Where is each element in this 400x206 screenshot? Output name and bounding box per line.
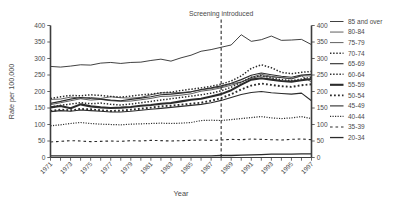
y-tick-label-left: 400: [34, 22, 45, 29]
y-tick-label-right: 250: [317, 71, 328, 78]
legend-label-35-39: 35-39: [348, 123, 365, 130]
y-tick-label-left: 50: [38, 137, 46, 144]
y-tick-label-right: 350: [317, 38, 328, 45]
legend-label-75-79: 75-79: [348, 39, 365, 46]
x-tick-label: 1987: [199, 160, 214, 175]
line-chart-svg: Screening introduced00505010010015015020…: [0, 0, 400, 206]
legend-label-80-84: 80-84: [348, 28, 365, 35]
axes-group: 0050501001001501502002002502503003003503…: [34, 22, 328, 175]
x-tick-label: 1985: [179, 160, 194, 175]
legend-label-70-74: 70-74: [348, 50, 365, 57]
y-tick-label-right: 200: [317, 88, 328, 95]
y-tick-label-right: 150: [317, 104, 328, 111]
series-line-85-and-over: [51, 35, 312, 67]
y-tick-label-left: 100: [34, 121, 45, 128]
legend-label-65-69: 65-69: [348, 60, 365, 67]
x-tick-label: 1979: [119, 160, 134, 175]
series-line-35-39: [51, 139, 312, 142]
legend-label-45-49: 45-49: [348, 102, 365, 109]
x-tick-label: 1977: [99, 160, 114, 175]
y-tick-label-left: 300: [34, 55, 45, 62]
series-line-65-69: [51, 73, 312, 103]
x-tick-label: 1995: [279, 160, 294, 175]
y-tick-label-left: 200: [34, 88, 45, 95]
x-tick-label: 1991: [239, 160, 254, 175]
x-axis-title: Year: [174, 189, 189, 198]
screening-introduced-label: Screening introduced: [189, 10, 253, 18]
series-line-20-34: [51, 154, 312, 156]
y-tick-label-right: 300: [317, 55, 328, 62]
x-tick-label: 1989: [219, 160, 234, 175]
y-tick-label-left: 150: [34, 104, 45, 111]
y-tick-label-left: 350: [34, 38, 45, 45]
legend-label-85-and-over: 85 and over: [348, 18, 383, 25]
x-tick-label: 1973: [58, 160, 73, 175]
legend-label-40-44: 40-44: [348, 113, 365, 120]
legend: 85 and over80-8475-7970-7465-6960-6455-5…: [330, 18, 383, 141]
y-tick-label-left: 0: [42, 154, 46, 161]
legend-label-20-34: 20-34: [348, 134, 365, 141]
legend-label-60-64: 60-64: [348, 71, 365, 78]
series-group: [51, 35, 312, 156]
series-line-40-44: [51, 117, 312, 126]
x-tick-label: 1981: [139, 160, 154, 175]
x-tick-label: 1983: [159, 160, 174, 175]
x-tick-label: 1971: [38, 160, 53, 175]
x-tick-label: 1975: [79, 160, 94, 175]
legend-label-55-59: 55-59: [348, 81, 365, 88]
y-tick-label-right: 400: [317, 22, 328, 29]
y-tick-label-left: 250: [34, 71, 45, 78]
y-tick-label-right: 0: [317, 154, 321, 161]
y-tick-label-right: 50: [317, 137, 325, 144]
chart-figure: Screening introduced00505010010015015020…: [0, 0, 400, 206]
y-axis-title: Rate per 100,000: [7, 64, 16, 120]
x-tick-label: 1993: [259, 160, 274, 175]
x-tick-label: 1997: [299, 160, 314, 175]
y-tick-label-right: 100: [317, 121, 328, 128]
legend-label-50-54: 50-54: [348, 92, 365, 99]
